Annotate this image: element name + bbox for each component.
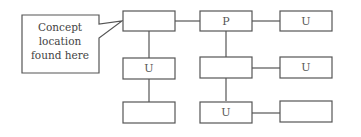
svg-text:U: U	[221, 106, 230, 119]
svg-text:P: P	[222, 15, 230, 28]
svg-text:U: U	[144, 62, 153, 75]
node-u-center-bottom: U	[200, 102, 252, 123]
callout-line-3: found here	[31, 49, 89, 61]
node-root	[123, 11, 175, 31]
callout: Concept location found here	[22, 15, 122, 73]
node-right-bottom	[280, 101, 332, 122]
node-u-top-right: U	[280, 11, 332, 31]
node-u-right-mid: U	[280, 57, 332, 78]
svg-text:U: U	[301, 15, 310, 28]
callout-line-1: Concept	[38, 21, 83, 33]
node-p: P	[200, 11, 252, 31]
node-u-left-mid: U	[123, 58, 175, 79]
node-left-bottom	[123, 102, 175, 123]
tree-diagram: Concept location found here P U U U U	[0, 0, 361, 137]
node-center-mid	[200, 57, 252, 78]
svg-text:U: U	[301, 61, 310, 74]
callout-line-2: location	[39, 35, 82, 47]
